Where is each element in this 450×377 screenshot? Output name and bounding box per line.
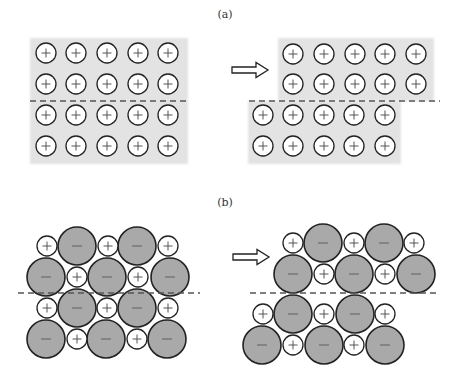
cation-plus-icon xyxy=(345,74,365,94)
anion-minus-icon xyxy=(304,224,342,262)
anion-minus-icon xyxy=(305,326,343,364)
cation-plus-icon xyxy=(283,136,303,156)
cation-plus-icon xyxy=(127,329,147,349)
cation-plus-icon xyxy=(97,298,117,318)
cation-plus-icon xyxy=(67,329,87,349)
cation-plus-icon xyxy=(128,74,148,94)
anion-minus-icon xyxy=(148,320,186,358)
anion-minus-icon xyxy=(274,255,312,293)
anion-minus-icon xyxy=(274,295,312,333)
cation-plus-icon xyxy=(314,264,334,284)
anion-minus-icon xyxy=(365,224,403,262)
anion-minus-icon xyxy=(243,326,281,364)
cation-plus-icon xyxy=(253,304,273,324)
anion-minus-icon xyxy=(58,289,96,327)
cation-plus-icon xyxy=(314,74,334,94)
cation-plus-icon xyxy=(37,298,57,318)
cation-plus-icon xyxy=(158,74,178,94)
cation-plus-icon xyxy=(344,233,364,253)
cation-plus-icon xyxy=(66,43,86,63)
cation-plus-icon xyxy=(128,267,148,287)
cation-plus-icon xyxy=(375,74,395,94)
cation-plus-icon xyxy=(158,136,178,156)
cation-plus-icon xyxy=(36,105,56,125)
anion-minus-icon xyxy=(87,320,125,358)
cation-plus-icon xyxy=(98,236,118,256)
cation-plus-icon xyxy=(253,105,273,125)
cation-plus-icon xyxy=(36,43,56,63)
cation-plus-icon xyxy=(375,304,395,324)
anion-minus-icon xyxy=(27,320,65,358)
anion-minus-icon xyxy=(366,326,404,364)
cation-plus-icon xyxy=(345,44,365,64)
cation-plus-icon xyxy=(375,44,395,64)
cation-plus-icon xyxy=(406,44,426,64)
cation-plus-icon xyxy=(344,335,364,355)
panel-a-metal-lattice xyxy=(30,38,440,164)
cation-plus-icon xyxy=(283,44,303,64)
cation-plus-icon xyxy=(283,74,303,94)
cation-plus-icon xyxy=(36,74,56,94)
cation-plus-icon xyxy=(66,74,86,94)
anion-minus-icon xyxy=(397,255,435,293)
anion-minus-icon xyxy=(88,258,126,296)
cation-plus-icon xyxy=(97,74,117,94)
cation-plus-icon xyxy=(375,264,395,284)
anion-minus-icon xyxy=(118,227,156,265)
cation-plus-icon xyxy=(128,43,148,63)
cation-plus-icon xyxy=(283,233,303,253)
cation-plus-icon xyxy=(314,304,334,324)
cation-plus-icon xyxy=(404,233,424,253)
cation-plus-icon xyxy=(158,236,178,256)
anion-minus-icon xyxy=(27,258,65,296)
cation-plus-icon xyxy=(67,267,87,287)
cation-plus-icon xyxy=(253,136,273,156)
cation-plus-icon xyxy=(375,105,395,125)
cation-plus-icon xyxy=(128,105,148,125)
cation-plus-icon xyxy=(406,74,426,94)
cation-plus-icon xyxy=(314,44,334,64)
ionic-vs-metallic-slip-diagram: (a) (b) xyxy=(0,0,450,377)
anion-minus-icon xyxy=(58,227,96,265)
cation-plus-icon xyxy=(97,136,117,156)
cation-plus-icon xyxy=(128,136,148,156)
panel-b-label: (b) xyxy=(217,196,233,209)
anion-minus-icon xyxy=(335,255,373,293)
cation-plus-icon xyxy=(66,105,86,125)
shift-arrow-icon xyxy=(232,63,268,78)
anion-minus-icon xyxy=(118,289,156,327)
anion-minus-icon xyxy=(336,295,374,333)
cation-plus-icon xyxy=(37,236,57,256)
panel-b-ionic-lattice xyxy=(18,224,437,364)
cation-plus-icon xyxy=(97,43,117,63)
cation-plus-icon xyxy=(375,136,395,156)
cation-plus-icon xyxy=(66,136,86,156)
cation-plus-icon xyxy=(97,105,117,125)
cation-plus-icon xyxy=(158,298,178,318)
cation-plus-icon xyxy=(283,105,303,125)
cation-plus-icon xyxy=(158,105,178,125)
cation-plus-icon xyxy=(314,136,334,156)
shift-arrow-icon xyxy=(233,250,269,265)
cation-plus-icon xyxy=(283,335,303,355)
cation-plus-icon xyxy=(158,43,178,63)
cation-plus-icon xyxy=(314,105,334,125)
panel-a-label: (a) xyxy=(217,8,232,21)
cation-plus-icon xyxy=(36,136,56,156)
anion-minus-icon xyxy=(151,258,189,296)
cation-plus-icon xyxy=(344,105,364,125)
cation-plus-icon xyxy=(344,136,364,156)
